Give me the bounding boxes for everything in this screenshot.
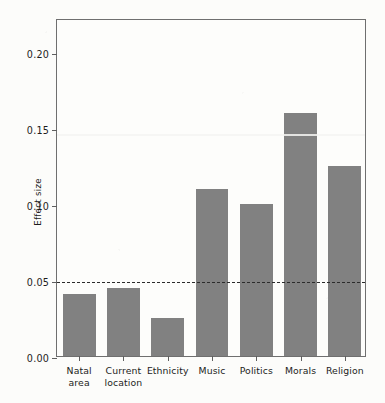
x-axis-tick-label: Religion	[326, 365, 364, 377]
x-axis-tick-label: Natalarea	[67, 365, 92, 388]
plot-area: 0.000.050.100.150.20NatalareaCurrentloca…	[57, 20, 365, 356]
x-axis-tick-label: Morals	[285, 365, 316, 377]
x-axis-tick-mark	[301, 356, 302, 361]
y-axis-tick-mark	[52, 206, 57, 207]
threshold-line	[57, 282, 365, 283]
y-axis-tick-mark	[52, 54, 57, 55]
bar-current-location	[107, 288, 140, 356]
bar-music	[196, 189, 229, 356]
x-axis-tick-label-line: Natal	[67, 365, 92, 377]
bar-politics	[240, 204, 273, 356]
x-axis-tick-label-line: Morals	[285, 365, 316, 377]
x-axis-tick-mark	[79, 356, 80, 361]
bar-morals	[284, 113, 317, 356]
bar-religion	[328, 166, 361, 356]
x-axis-tick-label-line: Politics	[240, 365, 273, 377]
x-axis-tick-label-line: area	[67, 377, 92, 389]
x-axis-tick-label: Ethnicity	[147, 365, 189, 377]
x-axis-tick-label-line: Ethnicity	[147, 365, 189, 377]
y-axis-tick-mark	[52, 358, 57, 359]
x-axis-tick-label: Music	[199, 365, 226, 377]
y-axis-tick-label: 0.15	[27, 124, 49, 135]
x-axis-tick-mark	[345, 356, 346, 361]
x-axis-tick-mark	[256, 356, 257, 361]
y-axis-tick-label: 0.00	[27, 353, 49, 364]
y-axis-tick-mark	[52, 130, 57, 131]
bar-ethnicity	[151, 318, 184, 356]
y-axis-tick-label: 0.05	[27, 276, 49, 287]
scan-streak-artifact	[57, 134, 365, 136]
bar-natal-area	[63, 294, 96, 356]
x-axis-tick-label: Politics	[240, 365, 273, 377]
x-axis-tick-label: Currentlocation	[105, 365, 143, 388]
x-axis-tick-label-line: Music	[199, 365, 226, 377]
y-axis-tick-label: 0.20	[27, 48, 49, 59]
chart-figure: Effect size 0.000.050.100.150.20Natalare…	[0, 0, 385, 403]
plot-frame: 0.000.050.100.150.20NatalareaCurrentloca…	[56, 19, 366, 357]
x-axis-tick-label-line: location	[105, 377, 143, 389]
x-axis-tick-label-line: Current	[105, 365, 143, 377]
x-axis-tick-mark	[212, 356, 213, 361]
y-axis-tick-label: 0.10	[27, 200, 49, 211]
x-axis-tick-mark	[168, 356, 169, 361]
x-axis-tick-mark	[123, 356, 124, 361]
x-axis-tick-label-line: Religion	[326, 365, 364, 377]
